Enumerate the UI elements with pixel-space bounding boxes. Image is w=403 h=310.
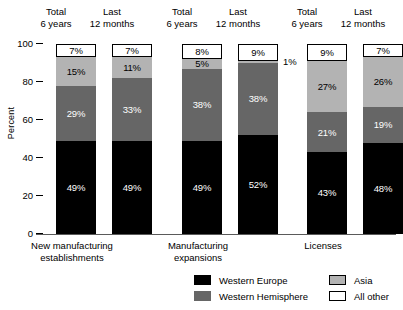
y-tick-label-20: 20 (0, 191, 33, 201)
group-caption-2: Licenses (248, 240, 398, 252)
legend-label: Western Hemisphere (219, 291, 308, 302)
segment-all-other[interactable]: 7% (363, 44, 403, 57)
segment-western-hemisphere[interactable]: 29% (56, 86, 96, 141)
group-caption-line2: expansions (123, 252, 273, 264)
segment-western-europe[interactable]: 49% (182, 141, 222, 234)
segment-all-other[interactable]: 9% (238, 44, 278, 61)
segment-western-europe[interactable]: 43% (307, 152, 347, 234)
y-tick-mark-60 (36, 119, 43, 120)
segment-asia[interactable]: 11% (112, 57, 152, 78)
bar-header-1: Last 12 months (80, 6, 144, 29)
bar-header-line2: 12 months (80, 18, 144, 30)
group-caption-line1: Licenses (248, 240, 398, 252)
bar-header-line1: Total (24, 6, 88, 18)
stacked-bar-chart: Percent 100 80 60 40 20 0 Total 6 years … (0, 0, 403, 310)
bar-group2-last12months[interactable]: 48% 19% 26% 7% (363, 44, 403, 234)
y-tick-mark-100 (36, 43, 43, 44)
legend-label: All other (354, 291, 389, 302)
segment-asia[interactable]: 15% (56, 57, 96, 86)
bar-group0-total6years[interactable]: 49% 29% 15% 7% (56, 44, 96, 234)
bar-header-line1: Total (275, 6, 339, 18)
legend-item-all-other[interactable]: All other (329, 291, 389, 302)
segment-western-hemisphere[interactable]: 19% (363, 107, 403, 143)
annotation-1-percent: 1% (283, 57, 297, 67)
segment-all-other[interactable]: 8% (182, 44, 222, 59)
bar-header-5: Last 12 months (331, 6, 395, 29)
bar-header-line2: 6 years (150, 18, 214, 30)
legend-item-asia[interactable]: Asia (329, 275, 372, 286)
y-tick-label-80: 80 (0, 77, 33, 87)
bar-header-4: Total 6 years (275, 6, 339, 29)
segment-asia[interactable]: 1% (238, 61, 278, 63)
legend-row-1: Western Europe Asia (194, 272, 403, 288)
legend-item-western-europe[interactable]: Western Europe (194, 275, 329, 286)
legend-swatch-icon (329, 291, 346, 301)
y-tick-mark-80 (36, 81, 43, 82)
segment-all-other[interactable]: 9% (307, 44, 347, 61)
legend-row-2: Western Hemisphere All other (194, 288, 403, 304)
segment-western-europe[interactable]: 49% (56, 141, 96, 234)
segment-western-hemisphere[interactable]: 33% (112, 78, 152, 141)
segment-western-hemisphere[interactable]: 21% (307, 112, 347, 152)
legend-swatch-icon (194, 291, 211, 301)
bar-header-line2: 12 months (206, 18, 270, 30)
bar-group1-last12months[interactable]: 52% 38% 1% 9% (238, 44, 278, 234)
bar-group1-total6years[interactable]: 49% 38% 5% 8% (182, 44, 222, 234)
bar-group0-last12months[interactable]: 49% 33% 11% 7% (112, 44, 152, 234)
bar-header-line1: Last (331, 6, 395, 18)
y-tick-label-60: 60 (0, 115, 33, 125)
y-tick-label-0: 0 (0, 229, 33, 239)
plot-area: 49% 29% 15% 7% 49% 33% 11% 7% 49% 38% 5%… (44, 44, 396, 234)
segment-western-hemisphere[interactable]: 38% (182, 69, 222, 141)
bar-header-line1: Last (80, 6, 144, 18)
bar-header-0: Total 6 years (24, 6, 88, 29)
bar-header-line2: 6 years (275, 18, 339, 30)
bar-header-3: Last 12 months (206, 6, 270, 29)
segment-western-europe[interactable]: 49% (112, 141, 152, 234)
legend: Western Europe Asia Western Hemisphere A… (194, 272, 403, 304)
y-tick-label-100: 100 (0, 39, 33, 49)
segment-asia[interactable]: 27% (307, 61, 347, 112)
legend-label: Asia (354, 275, 372, 286)
bar-group2-total6years[interactable]: 43% 21% 27% 9% (307, 44, 347, 234)
segment-asia[interactable]: 26% (363, 57, 403, 106)
legend-item-western-hemisphere[interactable]: Western Hemisphere (194, 291, 329, 302)
bar-header-2: Total 6 years (150, 6, 214, 29)
legend-swatch-icon (329, 275, 346, 285)
bar-header-line2: 6 years (24, 18, 88, 30)
segment-all-other[interactable]: 7% (112, 44, 152, 57)
segment-western-europe[interactable]: 48% (363, 143, 403, 234)
bar-header-line2: 12 months (331, 18, 395, 30)
segment-western-hemisphere[interactable]: 38% (238, 63, 278, 135)
y-tick-label-40: 40 (0, 153, 33, 163)
bar-header-line1: Total (150, 6, 214, 18)
segment-asia[interactable]: 5% (182, 59, 222, 69)
x-axis-baseline (36, 234, 396, 235)
y-tick-mark-20 (36, 195, 43, 196)
legend-swatch-icon (194, 275, 211, 285)
y-tick-mark-40 (36, 157, 43, 158)
legend-label: Western Europe (219, 275, 287, 286)
segment-western-europe[interactable]: 52% (238, 135, 278, 234)
segment-all-other[interactable]: 7% (56, 44, 96, 57)
bar-header-line1: Last (206, 6, 270, 18)
